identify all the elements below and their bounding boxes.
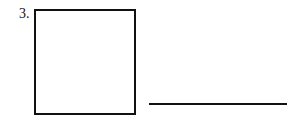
square-figure (34, 9, 136, 115)
answer-blank-line (149, 103, 287, 105)
problem-number: 3. (19, 7, 30, 21)
